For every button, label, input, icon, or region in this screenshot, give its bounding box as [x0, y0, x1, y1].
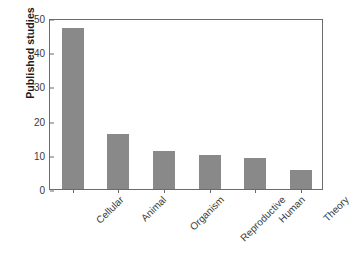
bar-slot — [187, 20, 233, 189]
x-tick-mark — [210, 189, 211, 193]
x-axis-labels: CellularAnimalOrganismReproductiveHumanT… — [49, 194, 323, 263]
bar-slot — [278, 20, 324, 189]
bar-slot — [50, 20, 96, 189]
bar-slot — [141, 20, 187, 189]
bar[interactable] — [62, 28, 84, 189]
x-tick-mark — [73, 189, 74, 193]
x-tick-mark — [301, 189, 302, 193]
x-tick-label: Cellular — [94, 194, 126, 226]
y-tick-label: 40 — [34, 49, 50, 59]
bar[interactable] — [199, 155, 221, 189]
x-tick-mark — [255, 189, 256, 193]
x-tick-label: Theory — [321, 194, 351, 224]
bar[interactable] — [153, 151, 175, 189]
x-tick-label: Animal — [138, 194, 167, 223]
y-tick-mark — [50, 191, 54, 192]
y-tick-label: 20 — [34, 118, 50, 128]
x-tick-mark — [164, 189, 165, 193]
bar-slot — [233, 20, 279, 189]
bar-slot — [96, 20, 142, 189]
y-tick-label: 10 — [34, 152, 50, 162]
y-tick-label: 30 — [34, 83, 50, 93]
y-tick-label: 50 — [34, 15, 50, 25]
bar[interactable] — [107, 134, 129, 189]
x-tick-mark — [118, 189, 119, 193]
bars-layer — [50, 20, 322, 189]
bar[interactable] — [244, 158, 266, 189]
x-tick-label: Organism — [188, 194, 226, 232]
plot-area: 01020304050 — [49, 19, 323, 190]
bar[interactable] — [290, 170, 312, 189]
